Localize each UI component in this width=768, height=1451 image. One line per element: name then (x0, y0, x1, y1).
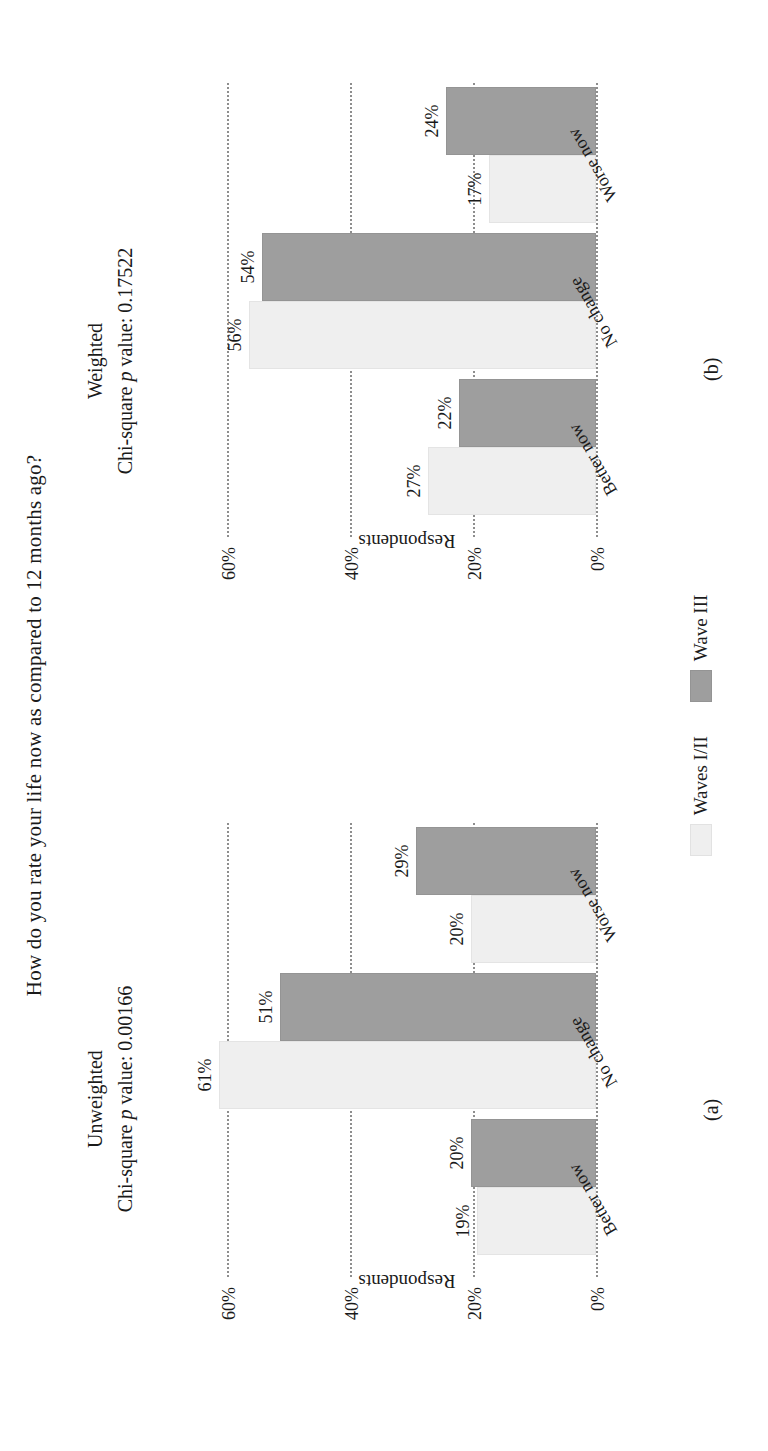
panel-a: Respondents 0% 20% 40% 60% 19% 20% (196, 813, 626, 1373)
panel-b-chisq-prefix: Chi-square (114, 382, 136, 475)
panel-a-bar-label-no-change-wave-iii: 51% (256, 991, 277, 1024)
panel-a-bar-better-now-waves-i-ii[interactable]: 19% (477, 1187, 596, 1255)
panel-b-bar-label-no-change-waves-i-ii: 56% (225, 319, 246, 352)
legend: Waves I/II Wave III (690, 0, 712, 1451)
panel-a-tick-0: 0% (588, 1287, 609, 1311)
panel-a-group-no-change: 61% 51% No change (196, 973, 596, 1109)
panel-a-bar-worse-now-waves-i-ii[interactable]: 20% (471, 895, 596, 963)
panel-b-group-better-now: 27% 22% Better now (196, 379, 596, 515)
panel-a-chisq-italic-p: p (114, 1110, 136, 1120)
panel-a-bar-label-better-now-wave-iii: 20% (447, 1137, 468, 1170)
legend-entry-waves-i-ii: Waves I/II (690, 736, 712, 856)
panel-a-tick-40: 40% (342, 1287, 363, 1320)
panel-a-bar-label-better-now-waves-i-ii: 19% (453, 1205, 474, 1238)
figure-title: How do you rate your life now as compare… (22, 0, 47, 1451)
panel-b-bar-label-worse-now-waves-i-ii: 17% (465, 173, 486, 206)
legend-entry-wave-iii: Wave III (690, 595, 712, 703)
figure: How do you rate your life now as compare… (0, 0, 768, 1451)
panel-b-chisq-suffix: value: 0.17522 (114, 248, 136, 372)
panel-b-chisq-italic-p: p (114, 372, 136, 382)
panel-b-subtitle-main: Weighted (80, 101, 110, 621)
panel-b-bar-worse-now-waves-i-ii[interactable]: 17% (489, 155, 596, 223)
panel-a-bar-label-worse-now-wave-iii: 29% (392, 845, 413, 878)
panel-a-subtitle-pvalue: Chi-square p value: 0.00166 (110, 839, 140, 1359)
panel-b-bar-label-better-now-waves-i-ii: 27% (404, 465, 425, 498)
panel-a-bar-no-change-waves-i-ii[interactable]: 61% (219, 1041, 596, 1109)
panel-a-letter: (a) (700, 1099, 723, 1121)
panel-a-subtitle-main: Unweighted (80, 839, 110, 1359)
panel-b-subtitle: Weighted Chi-square p value: 0.17522 (80, 101, 140, 621)
panel-b-tick-60: 60% (219, 547, 240, 580)
panel-b-plot-area: Respondents 0% 20% 40% 60% 27% 22% (196, 83, 596, 537)
legend-swatch-wave-iii-icon (690, 670, 712, 702)
panel-b-bar-label-worse-now-wave-iii: 24% (422, 105, 443, 138)
figure-rotator: How do you rate your life now as compare… (0, 0, 768, 1451)
panel-a-group-worse-now: 20% 29% Worse now (196, 827, 596, 963)
panel-b: Respondents 0% 20% 40% 60% 27% 22% (196, 73, 626, 633)
panel-b-tick-40: 40% (342, 547, 363, 580)
panel-a-tick-60: 60% (219, 1287, 240, 1320)
panel-b-bar-no-change-wave-iii[interactable]: 54% (262, 233, 596, 301)
legend-label-wave-iii: Wave III (690, 595, 712, 662)
panel-b-tick-20: 20% (465, 547, 486, 580)
legend-swatch-waves-i-ii-icon (690, 824, 712, 856)
panel-a-bar-label-worse-now-waves-i-ii: 20% (447, 913, 468, 946)
panel-b-bar-no-change-waves-i-ii[interactable]: 56% (249, 301, 596, 369)
panel-a-bar-no-change-wave-iii[interactable]: 51% (280, 973, 596, 1041)
panel-b-bar-better-now-waves-i-ii[interactable]: 27% (428, 447, 596, 515)
panel-a-subtitle: Unweighted Chi-square p value: 0.00166 (80, 839, 140, 1359)
panel-a-bar-label-no-change-waves-i-ii: 61% (195, 1059, 216, 1092)
panel-a-chisq-suffix: value: 0.00166 (114, 986, 136, 1110)
panel-a-group-better-now: 19% 20% Better now (196, 1119, 596, 1255)
panel-a-plot-area: Respondents 0% 20% 40% 60% 19% 20% (196, 823, 596, 1277)
legend-label-waves-i-ii: Waves I/II (690, 736, 712, 815)
panel-b-group-worse-now: 17% 24% Worse now (196, 87, 596, 223)
panel-a-tick-20: 20% (465, 1287, 486, 1320)
panel-a-chisq-prefix: Chi-square (114, 1120, 136, 1213)
panel-b-bar-label-no-change-wave-iii: 54% (238, 251, 259, 284)
panel-b-letter: (b) (700, 358, 723, 381)
panel-b-subtitle-pvalue: Chi-square p value: 0.17522 (110, 101, 140, 621)
panel-b-bar-label-better-now-wave-iii: 22% (435, 397, 456, 430)
panel-b-tick-0: 0% (588, 547, 609, 571)
panel-b-group-no-change: 56% 54% No change (196, 233, 596, 369)
